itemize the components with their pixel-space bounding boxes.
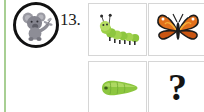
- grid-cell-caterpillar[interactable]: [88, 3, 147, 56]
- koala-icon-badge: [13, 2, 59, 48]
- grid-cell-butterfly[interactable]: [148, 3, 204, 56]
- grid-cell-unknown[interactable]: ?: [148, 61, 204, 112]
- picture-grid: ?: [88, 3, 204, 112]
- caterpillar-icon: [93, 11, 143, 49]
- larva-icon: [96, 75, 140, 101]
- left-edge-rule: [4, 0, 6, 112]
- question-mark-icon: ?: [168, 68, 187, 106]
- question-number-block: 13.: [13, 2, 88, 52]
- butterfly-icon: [155, 10, 201, 50]
- picture-grid-row: ?: [88, 61, 204, 112]
- grid-cell-larva[interactable]: [88, 61, 147, 112]
- picture-grid-row: [88, 3, 204, 56]
- koala-icon: [16, 5, 56, 45]
- question-number-label: 13.: [60, 11, 80, 28]
